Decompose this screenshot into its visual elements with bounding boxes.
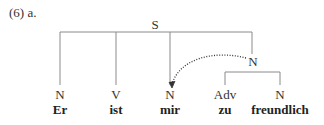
- leaf-category-n-freundlich: N: [275, 87, 284, 103]
- leaf-category-v-ist: V: [111, 87, 120, 103]
- word-freundlich: freundlich: [251, 102, 309, 118]
- leaf-category-adv-zu: Adv: [214, 87, 236, 103]
- phrase-node-n: N: [248, 54, 257, 70]
- root-node-s: S: [151, 17, 158, 33]
- word-ist: ist: [110, 102, 123, 118]
- leaf-category-n-mir: N: [165, 87, 174, 103]
- word-zu: zu: [219, 102, 232, 118]
- word-mir: mir: [160, 102, 180, 118]
- leaf-category-n-er: N: [55, 87, 64, 103]
- word-er: Er: [53, 102, 67, 118]
- dotted-arrow: [172, 55, 246, 84]
